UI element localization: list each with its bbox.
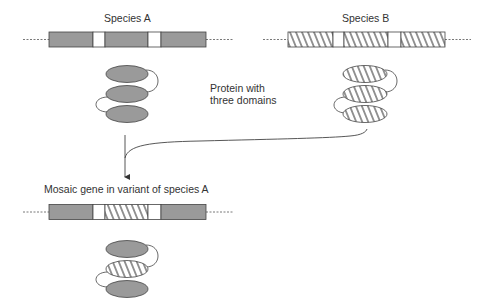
exon-gray [49, 205, 93, 220]
exon-gray [161, 205, 206, 220]
gene-species-b [263, 32, 471, 47]
exon-gray [49, 32, 93, 47]
domain-gray [106, 86, 148, 103]
recombination-arrows [125, 129, 367, 177]
domain-gray [106, 66, 148, 83]
linker [96, 97, 108, 112]
intron [148, 205, 161, 220]
exon-gray [105, 32, 148, 47]
exon-hatched [288, 32, 333, 47]
intron [333, 32, 344, 47]
gene-mosaic [23, 205, 233, 220]
gene-species-a [23, 32, 233, 47]
domain-hatched [343, 66, 387, 83]
exon-hatched [344, 32, 388, 47]
domain-gray [106, 106, 148, 123]
domain-hatched [343, 106, 387, 123]
curved-connector [125, 129, 367, 158]
protein-species-a [96, 66, 158, 123]
protein-species-b [334, 66, 397, 123]
mosaic-gene-label: Mosaic gene in variant of species A [44, 184, 209, 194]
intron [93, 32, 105, 47]
species-a-label: Species A [104, 13, 151, 23]
exon-hatched [401, 32, 445, 47]
protein-mosaic [96, 241, 158, 298]
diagram-canvas [0, 0, 493, 306]
domain-gray [106, 241, 148, 258]
domain-gray [106, 281, 148, 298]
domain-hatched [343, 86, 387, 103]
intron [93, 205, 105, 220]
exon-gray [161, 32, 206, 47]
protein-label-line1: Protein with [210, 83, 265, 93]
intron [148, 32, 161, 47]
linker [96, 272, 108, 287]
intron [388, 32, 401, 47]
domain-hatched [106, 261, 148, 278]
protein-label-line2: three domains [210, 95, 277, 105]
exon-hatched [105, 205, 148, 220]
species-b-label: Species B [342, 13, 389, 23]
